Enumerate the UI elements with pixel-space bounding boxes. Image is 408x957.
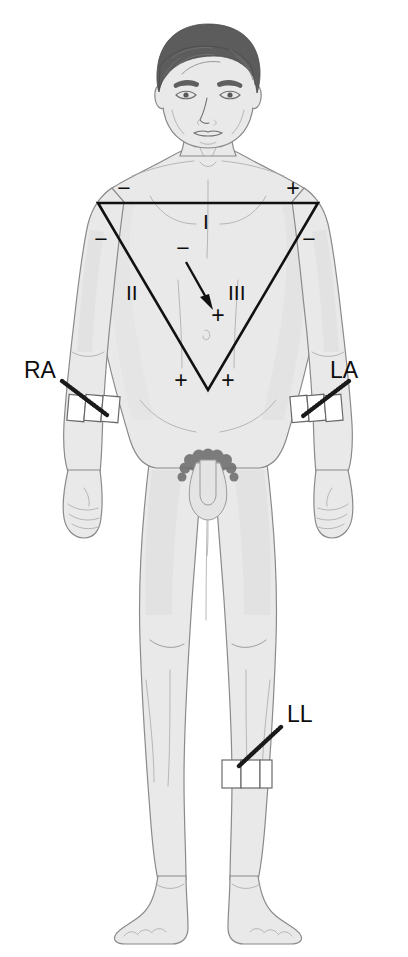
label-la: LA (330, 357, 359, 383)
axis-arrow-positive-sign: + (211, 302, 224, 328)
label-ra: RA (24, 357, 57, 383)
head-group (155, 24, 261, 148)
ra-strap-segment-3 (101, 395, 120, 422)
left-pupil (227, 92, 232, 97)
label-ll: LL (287, 701, 313, 727)
polarity-lead-ii-positive: + (174, 367, 187, 393)
polarity-lead-iii-negative: − (302, 226, 315, 252)
label-lead-i: I (203, 210, 209, 233)
penis-shaft (200, 460, 216, 505)
ecg-einthoven-triangle-illustration: RA LA LL I II III − + − − + + − + (0, 0, 408, 957)
right-pupil (183, 92, 188, 97)
polarity-lead-i-negative: − (117, 175, 130, 201)
axis-arrow-negative-sign: − (176, 235, 189, 261)
polarity-lead-i-positive: + (286, 175, 299, 201)
ll-strap-segment-3 (260, 760, 272, 788)
polarity-lead-ii-negative: − (94, 226, 107, 252)
illustration-canvas: RA LA LL I II III − + − − + + − + (0, 0, 408, 957)
la-strap-segment-1 (290, 395, 309, 422)
label-lead-ii: II (126, 281, 138, 304)
polarity-lead-iii-positive: + (221, 367, 234, 393)
label-lead-iii: III (228, 281, 246, 304)
